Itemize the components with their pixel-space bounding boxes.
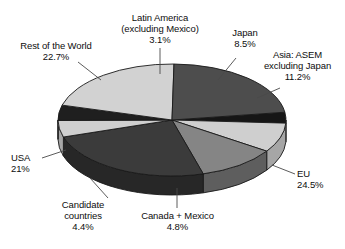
slice-label-usa-line1: USA: [11, 152, 57, 163]
slice-label-rest-of-world: Rest of the World 22.7%: [4, 40, 108, 62]
slice-value-rest-of-world: 22.7%: [4, 51, 108, 62]
slice-value-japan: 8.5%: [216, 38, 274, 49]
slice-label-latin-america-line1: Latin America: [100, 12, 220, 23]
slice-label-rest-of-world-line1: Rest of the World: [4, 40, 108, 51]
slice-label-canada-mexico-line1: Canada + Mexico: [125, 210, 230, 221]
slice-value-asia-asem: 11.2%: [250, 71, 345, 82]
leader-line-rest-of-world: [78, 62, 101, 80]
slice-label-asia-asem-line2: excluding Japan: [250, 60, 345, 71]
slice-label-eu: EU 24.5%: [297, 168, 343, 190]
slice-label-asia-asem: Asia: ASEM excluding Japan 11.2%: [250, 49, 345, 83]
slice-label-candidate-countries-line1: Candidate: [44, 199, 122, 210]
slice-label-latin-america: Latin America (excluding Mexico) 3.1%: [100, 12, 220, 46]
slice-label-candidate-countries: Candidate countries 4.4%: [44, 199, 122, 233]
slice-value-candidate-countries: 4.4%: [44, 221, 122, 232]
slice-value-canada-mexico: 4.8%: [125, 221, 230, 232]
pie-chart-figure: Latin America 3.1%Japan 8.5%Asia: ASEM e…: [0, 0, 345, 249]
slice-label-canada-mexico: Canada + Mexico 4.8%: [125, 210, 230, 232]
slice-label-usa: USA 21%: [11, 152, 57, 174]
slice-label-japan-line1: Japan: [216, 27, 274, 38]
slice-label-japan: Japan 8.5%: [216, 27, 274, 49]
slice-label-candidate-countries-line2: countries: [44, 210, 122, 221]
slice-label-asia-asem-line1: Asia: ASEM: [250, 49, 345, 60]
leader-line-eu: [272, 165, 295, 174]
slice-value-latin-america: 3.1%: [100, 34, 220, 45]
slice-label-latin-america-line2: (excluding Mexico): [100, 23, 220, 34]
slice-label-eu-line1: EU: [297, 168, 343, 179]
slice-value-eu: 24.5%: [297, 179, 343, 190]
slice-value-usa: 21%: [11, 163, 57, 174]
